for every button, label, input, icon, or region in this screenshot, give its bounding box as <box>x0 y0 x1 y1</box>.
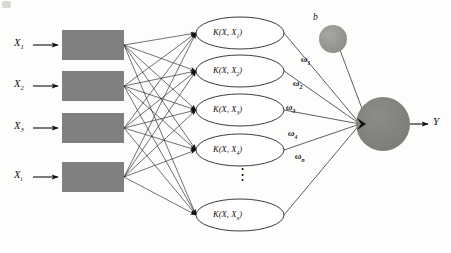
kernel-label-4: K(X, X4) <box>213 145 242 156</box>
kernel-nodes-group <box>196 17 284 231</box>
edge-2-2 <box>124 71 196 86</box>
edge-4-3 <box>124 110 196 177</box>
input-box-4 <box>62 162 124 192</box>
scan-artifact <box>2 1 11 8</box>
edge-4-2 <box>124 71 196 177</box>
input-label-2: X2 <box>14 79 24 92</box>
vertical-ellipsis-icon: ⋮ <box>235 168 250 180</box>
input-label-4: Xi <box>14 170 22 183</box>
weight-label-5: ωn <box>295 152 305 163</box>
weight-edge-3 <box>284 110 360 124</box>
input-label-1: X1 <box>14 38 24 51</box>
input-box-1 <box>62 30 124 60</box>
edge-3-1 <box>124 33 196 128</box>
edge-4-4 <box>124 150 196 177</box>
edge-3-2 <box>124 71 196 128</box>
weight-label-1: ω1 <box>301 55 310 66</box>
input-label-3: X3 <box>14 121 24 134</box>
edge-1-5 <box>124 45 196 215</box>
bias-node <box>319 25 347 53</box>
edge-1-4 <box>124 45 196 150</box>
weight-label-3: ω3 <box>286 103 295 114</box>
edge-1-1 <box>124 33 196 45</box>
weight-label-2: ω2 <box>293 79 302 90</box>
kernel-label-5: K(X, Xn) <box>213 210 242 221</box>
edge-2-3 <box>124 86 196 110</box>
network-diagram-figure: X1 X2 X3 Xi K(X, X1) K(X, X2) K(X, X3) K… <box>0 0 451 253</box>
edge-3-3 <box>124 110 196 128</box>
kernel-label-2: K(X, X2) <box>213 66 242 77</box>
input-arrows-group <box>33 45 58 177</box>
input-box-2 <box>62 71 124 101</box>
bias-label: b <box>313 13 318 23</box>
edge-3-5 <box>124 128 196 215</box>
edge-2-1 <box>124 33 196 86</box>
input-boxes-group <box>62 30 124 192</box>
input-box-3 <box>62 113 124 143</box>
edge-3-4 <box>124 128 196 150</box>
edge-1-2 <box>124 45 196 71</box>
input-to-kernel-edges <box>124 33 196 215</box>
output-label: Y <box>433 116 439 127</box>
kernel-label-3: K(X, X3) <box>213 105 242 116</box>
kernel-to-output-edges <box>284 33 360 215</box>
edge-2-4 <box>124 86 196 150</box>
weight-label-4: ω4 <box>288 129 297 140</box>
kernel-label-1: K(X, X1) <box>213 28 242 39</box>
